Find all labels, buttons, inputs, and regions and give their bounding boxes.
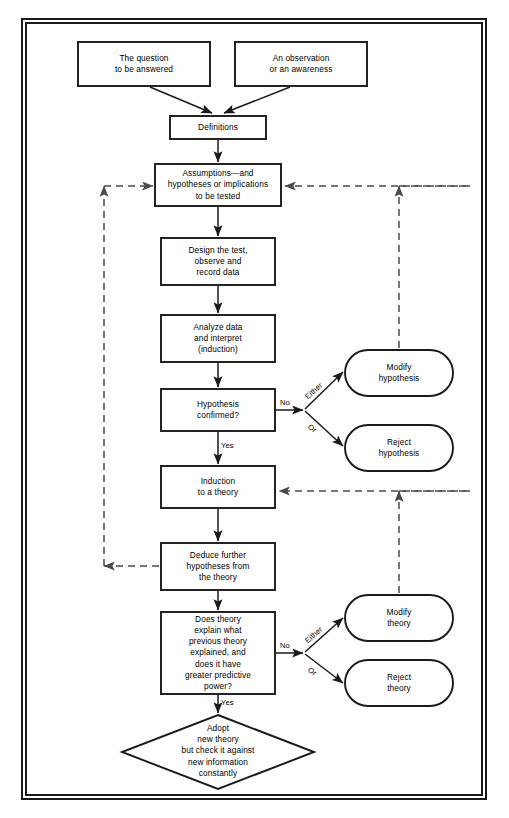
node-question-label: The question to be answered	[115, 53, 173, 75]
node-hypothesis-confirmed-label: Hypothesis confirmed?	[197, 399, 239, 421]
node-observation: An observation or an awareness	[235, 42, 367, 86]
node-observation-label: An observation or an awareness	[270, 53, 333, 75]
node-reject-hypothesis-label: Reject hypothesis	[379, 437, 420, 459]
flowchart-page: The question to be answered An observati…	[0, 0, 509, 818]
node-does-theory-label: Does theory explain what previous theory…	[185, 614, 251, 692]
edge-observation-to-definitions	[224, 87, 290, 113]
node-design-test-label: Design the test, observe and record data	[188, 245, 247, 279]
node-analyze-label: Analyze data and interpret (induction)	[193, 322, 242, 356]
edge-label-no-hypothesis: No	[280, 398, 290, 407]
node-does-theory: Does theory explain what previous theory…	[161, 612, 275, 694]
node-question: The question to be answered	[78, 42, 210, 86]
node-adopt-new-theory-label: Adopt new theory but check it against ne…	[181, 723, 254, 779]
edge-label-yes-theory: Yes	[221, 698, 234, 707]
node-assumptions: Assumptions—and hypotheses or implicatio…	[153, 164, 283, 206]
node-modify-theory: Modify theory	[345, 595, 453, 641]
node-assumptions-label: Assumptions—and hypotheses or implicatio…	[168, 168, 268, 202]
node-design-test: Design the test, observe and record data	[161, 238, 275, 285]
node-hypothesis-confirmed: Hypothesis confirmed?	[161, 389, 275, 431]
node-reject-hypothesis: Reject hypothesis	[345, 425, 453, 471]
node-definitions-label: Definitions	[198, 122, 238, 133]
node-analyze: Analyze data and interpret (induction)	[161, 315, 275, 362]
node-definitions: Definitions	[170, 116, 266, 139]
node-induction-label: Induction to a theory	[198, 476, 238, 498]
node-modify-hypothesis: Modify hypothesis	[345, 350, 453, 396]
node-deduce: Deduce further hypotheses from the theor…	[161, 543, 275, 590]
edge-label-no-theory: No	[280, 641, 290, 650]
node-adopt-new-theory: Adopt new theory but check it against ne…	[134, 722, 302, 780]
node-reject-theory: Reject theory	[345, 660, 453, 706]
node-induction: Induction to a theory	[161, 466, 275, 508]
node-modify-hypothesis-label: Modify hypothesis	[379, 362, 420, 384]
node-reject-theory-label: Reject theory	[387, 672, 411, 694]
edge-question-to-definitions	[150, 87, 212, 113]
node-deduce-label: Deduce further hypotheses from the theor…	[187, 550, 250, 584]
node-modify-theory-label: Modify theory	[386, 607, 411, 629]
edge-label-yes-hypothesis: Yes	[221, 441, 234, 450]
